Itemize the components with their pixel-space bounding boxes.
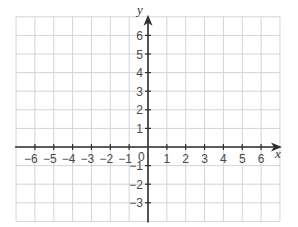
x-axis-label: x (274, 146, 281, 161)
x-tick-label: 5 (239, 152, 246, 166)
x-tick-label: 1 (164, 152, 171, 166)
y-tick-label: 2 (136, 103, 143, 117)
x-tick-label: −6 (24, 152, 38, 166)
x-tick-label: −3 (81, 152, 95, 166)
x-tick-label: −4 (62, 152, 76, 166)
origin-label: 0 (138, 150, 145, 164)
x-tick-label: 6 (258, 152, 265, 166)
x-tick-label: −2 (99, 152, 113, 166)
y-tick-label: −3 (129, 196, 143, 210)
y-tick-label: 5 (136, 48, 143, 62)
y-tick-label: 1 (136, 122, 143, 136)
y-tick-label: 3 (136, 85, 143, 99)
x-tick-label: −5 (43, 152, 57, 166)
coordinate-plane: −6−5−4−3−2−1123456−3−2−1123456 x y 0 (0, 0, 298, 227)
x-tick-label: 3 (201, 152, 208, 166)
y-tick-label: 6 (136, 29, 143, 43)
y-tick-label: 4 (136, 66, 143, 80)
y-tick-label: −2 (129, 178, 143, 192)
tick-labels: −6−5−4−3−2−1123456−3−2−1123456 (24, 29, 265, 210)
y-axis-label: y (135, 2, 143, 17)
x-tick-label: 4 (220, 152, 227, 166)
x-tick-label: 2 (182, 152, 189, 166)
